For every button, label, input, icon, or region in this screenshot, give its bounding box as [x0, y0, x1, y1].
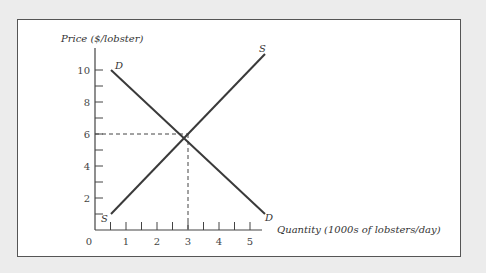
demand-label-start: D — [114, 60, 123, 71]
x-tick-label: 3 — [185, 236, 191, 247]
supply-demand-chart: 2 4 6 8 10 0 1 2 3 4 5 Price ($/lobster)… — [0, 0, 486, 273]
x-tick-label: 4 — [216, 236, 222, 247]
supply-label-start: S — [101, 213, 108, 224]
y-tick-label: 4 — [84, 161, 90, 172]
y-tick-label: 2 — [84, 193, 90, 204]
y-tick-label: 6 — [84, 129, 90, 140]
demand-label-end: D — [264, 212, 273, 223]
y-ticks — [95, 70, 103, 214]
y-tick-label: 10 — [77, 65, 90, 76]
y-tick-label: 8 — [84, 97, 90, 108]
x-tick-label: 5 — [247, 236, 253, 247]
y-axis-label: Price ($/lobster) — [60, 33, 144, 44]
x-tick-label: 2 — [154, 236, 160, 247]
supply-label-end: S — [259, 43, 266, 54]
x-axis-label: Quantity (1000s of lobsters/day) — [277, 224, 441, 235]
x-tick-label: 0 — [86, 236, 92, 247]
x-tick-label: 1 — [123, 236, 129, 247]
x-ticks — [111, 222, 251, 230]
